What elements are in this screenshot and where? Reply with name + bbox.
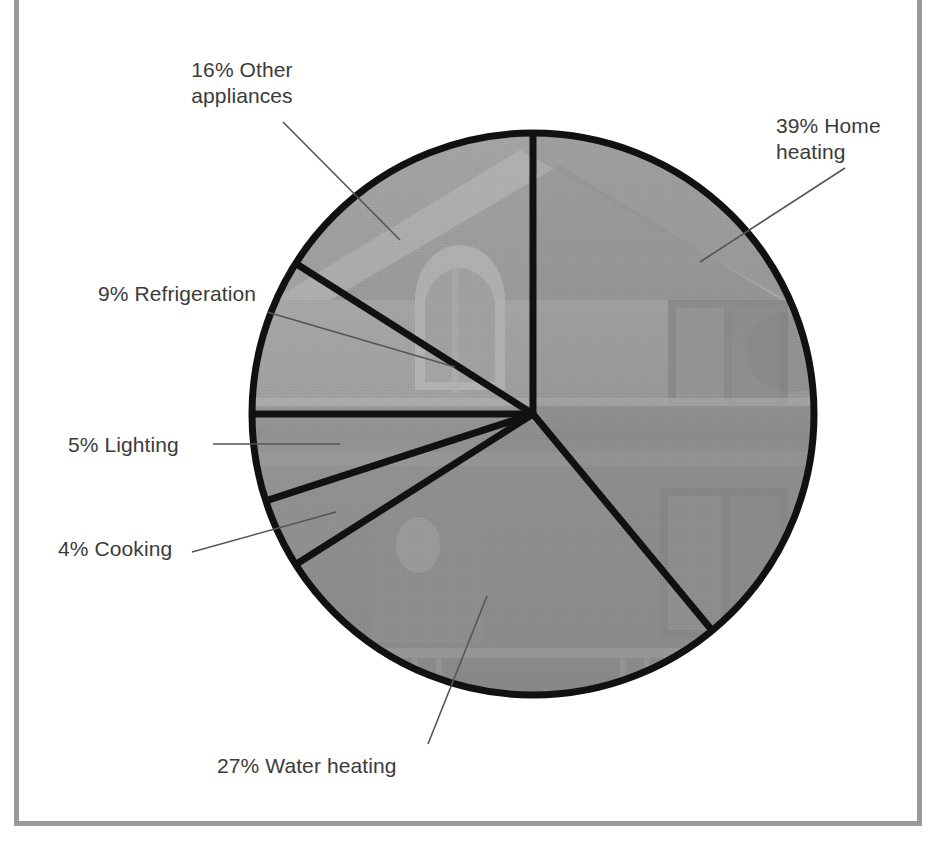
slice-label-home-heating: 39% Home heating [776, 113, 926, 165]
pie-chart-figure: 16% Other appliances 39% Home heating 9%… [0, 0, 947, 843]
chart-page: 16% Other appliances 39% Home heating 9%… [0, 0, 947, 843]
slice-label-lighting: 5% Lighting [68, 432, 228, 458]
slice-label-water-heating: 27% Water heating [217, 753, 477, 779]
slice-label-cooking: 4% Cooking [58, 536, 218, 562]
slice-label-other-appliances: 16% Other appliances [172, 57, 312, 109]
slice-label-refrigeration: 9% Refrigeration [98, 281, 328, 307]
